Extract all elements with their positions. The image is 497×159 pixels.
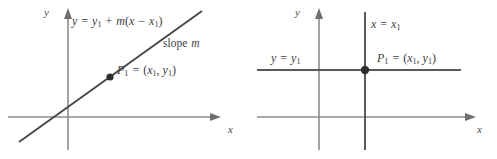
x-axis-label: x bbox=[228, 124, 233, 135]
pt-comma: , bbox=[417, 51, 420, 65]
vertical-line-label: x=x1 bbox=[371, 18, 401, 30]
eq-equals: = bbox=[81, 14, 88, 28]
figure-canvas: y x y=y1+m(x−x1) slopem P1=(x1,y1) bbox=[0, 0, 497, 159]
point-label-p1: P1=(x1,y1) bbox=[377, 52, 436, 64]
pt-subscript: 1 bbox=[124, 69, 128, 78]
x-axis-label: x bbox=[477, 124, 482, 135]
eq-paren-close: ) bbox=[158, 14, 162, 28]
pt-coord-x-subscript: 1 bbox=[153, 69, 157, 78]
pt-comma: , bbox=[157, 63, 160, 77]
vline-x1-subscript: 1 bbox=[396, 23, 400, 32]
y-axis-arrowhead bbox=[64, 8, 72, 19]
point-label-p1: P1=(x1,y1) bbox=[117, 64, 176, 76]
slope-symbol: m bbox=[191, 37, 199, 49]
y-axis-label: y bbox=[295, 7, 300, 18]
eq-y1-subscript: 1 bbox=[97, 20, 101, 29]
pt-coord-x: x bbox=[407, 51, 412, 65]
pt-paren-close: ) bbox=[172, 63, 176, 77]
eq-m: m bbox=[116, 14, 125, 28]
equation-point-slope: y=y1+m(x−x1) bbox=[72, 15, 162, 27]
pt-coord-x-subscript: 1 bbox=[413, 57, 417, 66]
point-marker-p1 bbox=[106, 73, 113, 80]
diagram-point-slope: y x y=y1+m(x−x1) slopem P1=(x1,y1) bbox=[0, 0, 249, 159]
y-axis-label: y bbox=[44, 7, 49, 18]
slope-word: slope bbox=[163, 37, 187, 49]
slope-label: slopem bbox=[163, 38, 200, 50]
pt-paren-close: ) bbox=[432, 51, 436, 65]
eq-y: y bbox=[72, 14, 77, 28]
y-axis-arrowhead bbox=[315, 8, 323, 19]
eq-plus: + bbox=[106, 14, 113, 28]
x-axis-arrowhead bbox=[210, 113, 221, 121]
diagram-vertical-horizontal: y x x=x1 y=y1 P1=(x1,y1) bbox=[249, 0, 497, 159]
pt-subscript: 1 bbox=[384, 57, 388, 66]
x-axis-arrowhead bbox=[465, 113, 476, 121]
eq-x1-subscript: 1 bbox=[154, 20, 158, 29]
hline-y1-subscript: 1 bbox=[296, 57, 300, 66]
pt-equals: = bbox=[132, 63, 139, 77]
pt-coord-x: x bbox=[147, 63, 152, 77]
horizontal-line-label: y=y1 bbox=[271, 52, 301, 64]
vline-x: x bbox=[371, 17, 376, 31]
eq-x: x bbox=[129, 14, 134, 28]
pt-equals: = bbox=[392, 51, 399, 65]
pt-coord-y-subscript: 1 bbox=[428, 57, 432, 66]
point-marker-p1 bbox=[361, 66, 369, 74]
hline-equals: = bbox=[280, 51, 287, 65]
hline-y: y bbox=[271, 51, 276, 65]
vline-equals: = bbox=[380, 17, 387, 31]
eq-minus: − bbox=[138, 14, 145, 28]
pt-coord-y-subscript: 1 bbox=[168, 69, 172, 78]
